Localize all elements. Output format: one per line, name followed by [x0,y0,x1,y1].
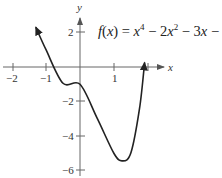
x-tick-label-neg2: −2 [6,72,18,84]
x-tick-label-neg1: −1 [40,72,52,84]
y-axis-label: y [76,1,82,13]
y-tick-label-neg4: −4 [62,130,74,142]
equation-label: f(x) = x4 − 2x2 − 3x − [98,22,219,40]
y-tick-label-neg2: −2 [62,95,74,107]
y-tick-label-neg6: −6 [62,164,74,176]
function-curve [36,27,145,161]
y-tick-label-2: 2 [68,26,74,38]
function-graph: −2 −1 1 2 −2 −4 −6 x y f(x) = x4 − 2x2 −… [0,0,222,178]
x-tick-label-1: 1 [112,72,118,84]
x-axis-label: x [167,61,173,73]
